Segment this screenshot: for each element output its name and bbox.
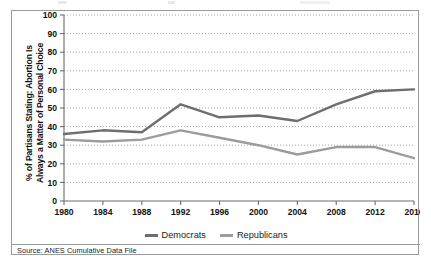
- y-axis-ticks: [60, 15, 64, 201]
- x-axis-tick-label: 2004: [288, 207, 307, 217]
- y-axis-tick-label: 100: [43, 11, 58, 20]
- chart-frame: % of Partisans Stating: Abortion Is Alwa…: [11, 10, 419, 255]
- chart-legend: Democrats Republicans: [12, 227, 420, 243]
- source-divider: [12, 244, 420, 245]
- x-axis-tick-labels: 1980198419881992199620002004200820122016: [54, 207, 420, 217]
- source-note: Source: ANES Cumulative Data File: [17, 246, 137, 255]
- y-axis-tick-label: 10: [47, 178, 57, 188]
- x-axis-tick-label: 2000: [249, 207, 268, 217]
- y-axis-tick-label: 80: [47, 47, 57, 57]
- legend-label-democrats: Democrats: [162, 230, 206, 240]
- y-axis-tick-label: 20: [47, 159, 57, 169]
- y-axis-tick-label: 0: [52, 196, 57, 206]
- x-axis-tick-label: 2008: [327, 207, 346, 217]
- y-axis-tick-label: 90: [47, 29, 57, 39]
- series-line-democrats: [64, 89, 414, 134]
- x-axis-tick-label: 1992: [171, 207, 190, 217]
- series-line-republicans: [64, 130, 414, 158]
- x-axis-ticks: [64, 201, 414, 205]
- series-lines: [64, 89, 414, 158]
- y-axis-tick-label: 60: [47, 85, 57, 95]
- legend-swatch-republicans: [220, 234, 233, 237]
- y-axis-tick-label: 70: [47, 66, 57, 76]
- legend-label-republicans: Republicans: [237, 230, 288, 240]
- line-chart-svg: 0102030405060708090100 19801984198819921…: [12, 11, 420, 227]
- x-axis-tick-label: 1996: [210, 207, 229, 217]
- figure-root: % of Partisans Stating: Abortion Is Alwa…: [0, 0, 431, 264]
- x-axis-tick-label: 1984: [93, 207, 112, 217]
- y-axis-tick-label: 50: [47, 103, 57, 113]
- y-axis-tick-label: 30: [47, 140, 57, 150]
- legend-swatch-democrats: [145, 234, 158, 237]
- plot-area-wrapper: % of Partisans Stating: Abortion Is Alwa…: [12, 11, 420, 256]
- y-axis-tick-label: 40: [47, 122, 57, 132]
- legend-item-democrats[interactable]: Democrats: [145, 230, 206, 240]
- x-axis-tick-label: 1988: [132, 207, 151, 217]
- legend-item-republicans[interactable]: Republicans: [220, 230, 288, 240]
- x-axis-tick-label: 1980: [54, 207, 73, 217]
- scan-bleed-artifact: [0, 0, 431, 8]
- x-axis-tick-label: 2016: [404, 207, 420, 217]
- y-axis-tick-labels: 0102030405060708090100: [43, 11, 58, 206]
- gridlines: [64, 15, 414, 182]
- x-axis-tick-label: 2012: [366, 207, 385, 217]
